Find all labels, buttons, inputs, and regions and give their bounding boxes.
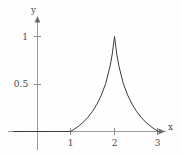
x-tick-label-2: 2: [112, 138, 118, 148]
plot-canvas: y x 1 0.5 1 2 3: [0, 0, 182, 156]
plot-figure: y x 1 0.5 1 2 3: [0, 0, 182, 156]
x-tick-label-3: 3: [155, 138, 161, 148]
y-tick-label-1: 1: [22, 32, 28, 42]
x-axis-arrow-icon: [159, 129, 166, 135]
y-tick-label-half: 0.5: [14, 79, 29, 89]
x-axis-label: x: [168, 122, 173, 132]
x-tick-label-1: 1: [68, 138, 74, 148]
y-axis-label: y: [30, 5, 37, 15]
y-axis-arrow-icon: [35, 16, 41, 23]
